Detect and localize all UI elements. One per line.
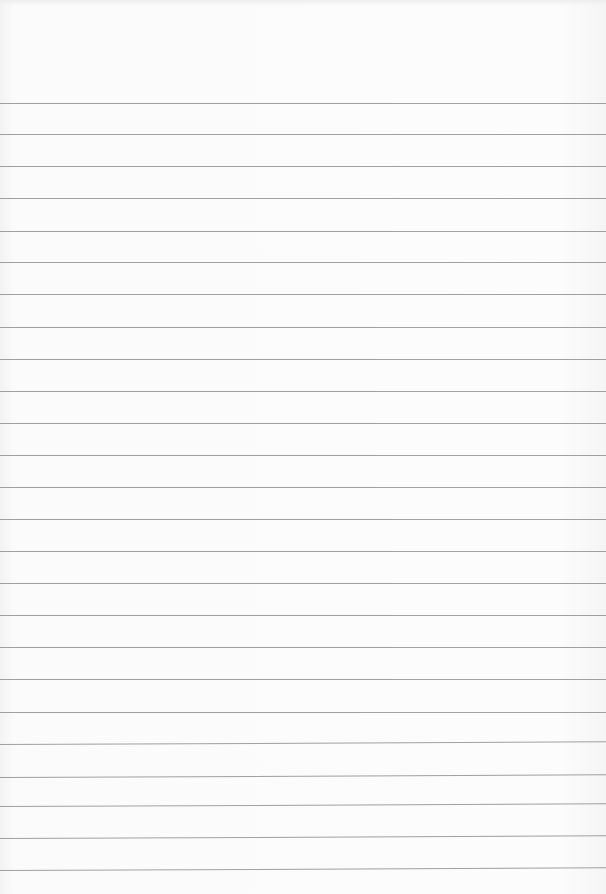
lined-paper-sheet	[0, 0, 606, 894]
ruled-line	[0, 359, 606, 360]
ruled-line	[0, 867, 606, 871]
ruled-line	[0, 391, 606, 392]
ruled-line	[0, 803, 606, 807]
ruled-line	[0, 712, 606, 713]
ruled-line	[0, 134, 606, 135]
ruled-line	[0, 615, 606, 616]
ruled-line	[0, 455, 606, 456]
ruled-line	[0, 103, 606, 104]
ruled-line	[0, 647, 606, 648]
ruled-line	[0, 262, 606, 263]
ruled-line	[0, 774, 606, 778]
paper-top-edge	[0, 0, 606, 6]
ruled-line	[0, 583, 606, 584]
ruled-line	[0, 551, 606, 552]
ruled-line	[0, 327, 606, 328]
ruled-line	[0, 679, 606, 680]
ruled-line	[0, 741, 606, 745]
ruled-line	[0, 519, 606, 520]
ruled-line	[0, 423, 606, 424]
ruled-line	[0, 166, 606, 167]
ruled-line	[0, 835, 606, 839]
ruled-line	[0, 231, 606, 232]
ruled-line	[0, 198, 606, 199]
ruled-line	[0, 294, 606, 295]
ruled-line	[0, 487, 606, 488]
